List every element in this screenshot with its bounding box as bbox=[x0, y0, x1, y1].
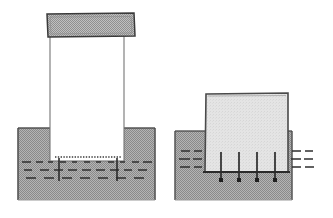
caisson-top-cap bbox=[47, 13, 135, 37]
caisson-shaft bbox=[50, 24, 124, 161]
figure-canvas bbox=[0, 0, 333, 218]
